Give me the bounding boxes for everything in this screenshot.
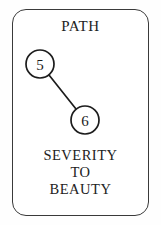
page-title: PATH [0,17,161,35]
card-diagram-screenshot: PATH 5 6 SEVERITY TO BEAUTY [0,0,161,225]
caption-line-1: SEVERITY [0,147,161,164]
caption-line-3: BEAUTY [0,181,161,198]
caption-line-2: TO [0,164,161,181]
